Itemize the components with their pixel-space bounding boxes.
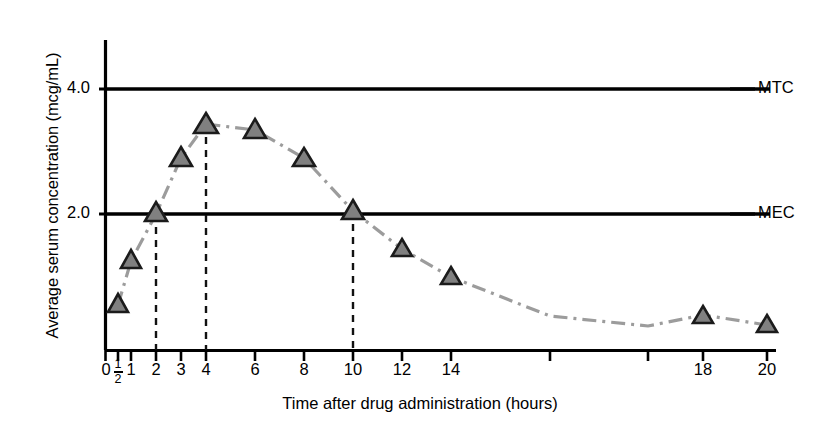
x-tick-label-14: 14 bbox=[431, 360, 471, 379]
data-point bbox=[194, 113, 218, 133]
x-tick-label-18: 18 bbox=[683, 360, 723, 379]
x-tick-label-10: 10 bbox=[333, 360, 373, 379]
y-axis-title: Average serum concentration (mcg/mL) bbox=[43, 26, 62, 366]
data-point bbox=[108, 294, 128, 312]
data-point bbox=[121, 250, 141, 268]
mtc-label: MTC bbox=[758, 78, 794, 97]
data-point bbox=[170, 147, 192, 166]
concentration-curve bbox=[118, 124, 767, 326]
data-point-markers bbox=[108, 113, 777, 332]
mec-label: MEC bbox=[758, 203, 795, 222]
y-tick-label-4: 4.0 bbox=[38, 78, 90, 97]
x-tick-label-6: 6 bbox=[235, 360, 275, 379]
y-tick-label-2: 2.0 bbox=[38, 203, 90, 222]
x-tick-label-20: 20 bbox=[747, 360, 787, 379]
x-axis-title: Time after drug administration (hours) bbox=[160, 394, 680, 413]
data-point bbox=[293, 148, 315, 166]
x-tick-label-8: 8 bbox=[284, 360, 324, 379]
x-tick-label-12: 12 bbox=[382, 360, 422, 379]
data-point bbox=[392, 239, 412, 256]
x-tick-label-4: 4 bbox=[186, 360, 226, 379]
level-label-leaders bbox=[730, 89, 755, 214]
pharmacokinetic-curve-figure: Average serum concentration (mcg/mL) Tim… bbox=[0, 0, 815, 446]
data-point bbox=[441, 267, 461, 284]
data-point bbox=[145, 202, 167, 221]
